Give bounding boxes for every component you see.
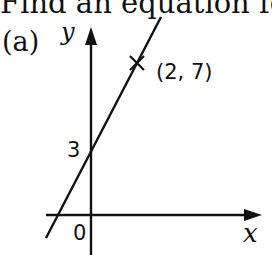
point-marker-cross-icon — [130, 56, 144, 70]
y-axis-label: y — [60, 18, 75, 46]
plotted-line — [46, 17, 161, 238]
point-label: (2, 7) — [156, 60, 212, 84]
y-axis-arrow-icon — [85, 27, 97, 45]
y-intercept-label: 3 — [67, 138, 80, 162]
x-axis — [46, 209, 262, 221]
origin-label: 0 — [73, 221, 86, 245]
graph: (2, 7) 3 0 y x — [0, 0, 272, 255]
x-axis-label: x — [243, 218, 258, 248]
